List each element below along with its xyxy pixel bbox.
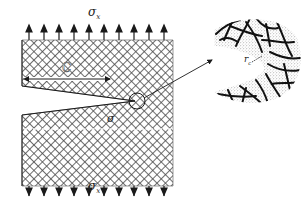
bottom-stress-label: σx bbox=[88, 180, 100, 195]
sigma-symbol: σ bbox=[88, 179, 96, 193]
top-stress-label: σx bbox=[88, 6, 100, 21]
c-subscript: c bbox=[248, 60, 251, 66]
magnified-crack-tip bbox=[214, 18, 301, 104]
specimen-plate bbox=[22, 40, 173, 186]
local-stress-label: σ bbox=[107, 113, 115, 124]
x-subscript: x bbox=[96, 12, 100, 21]
crack-length-label: C bbox=[62, 62, 71, 74]
sigma-symbol: σ bbox=[88, 5, 96, 19]
tip-radius-label: rc bbox=[244, 55, 251, 66]
top-stress-arrows bbox=[26, 25, 167, 40]
crack-diagram bbox=[0, 0, 305, 198]
c-symbol: C bbox=[62, 61, 71, 75]
x-subscript: x bbox=[96, 186, 100, 195]
sigma-local-symbol: σ bbox=[107, 112, 115, 125]
